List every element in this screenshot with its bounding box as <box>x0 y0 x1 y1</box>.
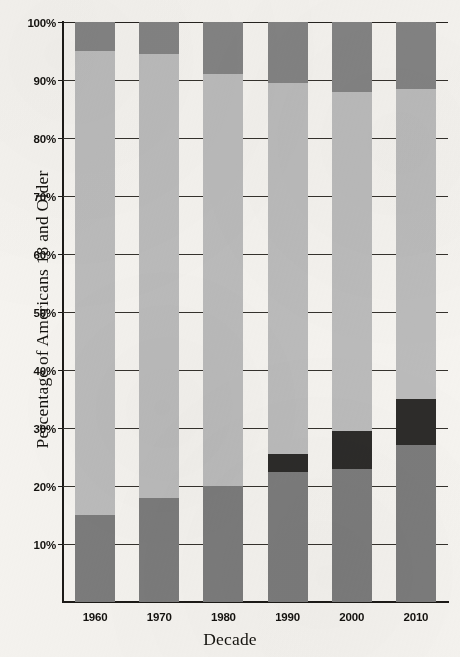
y-tick-label-80: 80% <box>34 133 56 145</box>
y-tick-label-60: 60% <box>34 249 56 261</box>
bar-segment-1970-segment-light[interactable] <box>139 54 179 498</box>
bar-segment-2010-segment-top[interactable] <box>396 22 436 89</box>
x-tick-label-2010: 2010 <box>396 611 436 623</box>
bar-segment-1960-segment-top[interactable] <box>75 22 115 51</box>
plot-area: 10%20%30%40%50%60%70%80%90%100% 19601970… <box>63 22 448 602</box>
bar-group-1960[interactable]: 1960 <box>75 22 115 602</box>
y-tick-mark-60 <box>58 254 63 255</box>
y-tick-mark-40 <box>58 370 63 371</box>
y-tick-mark-50 <box>58 312 63 313</box>
bar-segment-1980-segment-light[interactable] <box>203 74 243 486</box>
y-tick-label-10: 10% <box>34 539 56 551</box>
y-tick-label-100: 100% <box>27 17 56 29</box>
x-tick-label-1970: 1970 <box>139 611 179 623</box>
bar-segment-1990-segment-dark[interactable] <box>268 454 308 471</box>
y-tick-label-50: 50% <box>34 307 56 319</box>
bar-segment-2000-segment-bottom[interactable] <box>332 469 372 602</box>
gridline-30: 30% <box>63 428 448 429</box>
x-tick-label-1990: 1990 <box>268 611 308 623</box>
bar-segment-1970-segment-top[interactable] <box>139 22 179 54</box>
bar-group-1970[interactable]: 1970 <box>139 22 179 602</box>
y-tick-mark-70 <box>58 196 63 197</box>
y-tick-label-30: 30% <box>34 423 56 435</box>
gridline-50: 50% <box>63 312 448 313</box>
gridline-80: 80% <box>63 138 448 139</box>
y-tick-label-40: 40% <box>34 365 56 377</box>
stacked-bar-chart: Percentage of Americans 18 and Older 10%… <box>0 0 460 657</box>
bar-segment-1970-segment-bottom[interactable] <box>139 498 179 602</box>
bar-segment-2010-segment-light[interactable] <box>396 89 436 399</box>
gridline-40: 40% <box>63 370 448 371</box>
x-axis-title: Decade <box>0 629 460 650</box>
bar-segment-1980-segment-top[interactable] <box>203 22 243 74</box>
bar-segment-1980-segment-bottom[interactable] <box>203 486 243 602</box>
y-tick-label-90: 90% <box>34 75 56 87</box>
bar-segment-1990-segment-top[interactable] <box>268 22 308 83</box>
bar-group-1980[interactable]: 1980 <box>203 22 243 602</box>
y-tick-mark-30 <box>58 428 63 429</box>
bar-segment-2000-segment-top[interactable] <box>332 22 372 92</box>
gridline-90: 90% <box>63 80 448 81</box>
gridline-10: 10% <box>63 544 448 545</box>
bar-group-2010[interactable]: 2010 <box>396 22 436 602</box>
gridline-70: 70% <box>63 196 448 197</box>
x-axis-line <box>62 601 449 603</box>
bar-segment-1960-segment-light[interactable] <box>75 51 115 515</box>
y-tick-mark-10 <box>58 544 63 545</box>
gridline-20: 20% <box>63 486 448 487</box>
y-tick-mark-80 <box>58 138 63 139</box>
bar-segment-1960-segment-bottom[interactable] <box>75 515 115 602</box>
bar-segment-1990-segment-light[interactable] <box>268 83 308 454</box>
x-tick-label-1960: 1960 <box>75 611 115 623</box>
bar-segment-2000-segment-dark[interactable] <box>332 431 372 469</box>
y-tick-mark-100 <box>58 22 63 23</box>
y-tick-mark-90 <box>58 80 63 81</box>
y-tick-label-70: 70% <box>34 191 56 203</box>
bar-segment-1990-segment-bottom[interactable] <box>268 472 308 603</box>
gridline-100: 100% <box>63 22 448 23</box>
bar-group-1990[interactable]: 1990 <box>268 22 308 602</box>
bar-segment-2010-segment-bottom[interactable] <box>396 445 436 602</box>
bar-group-2000[interactable]: 2000 <box>332 22 372 602</box>
x-tick-label-1980: 1980 <box>203 611 243 623</box>
x-tick-label-2000: 2000 <box>332 611 372 623</box>
bar-segment-2000-segment-light[interactable] <box>332 92 372 431</box>
y-tick-label-20: 20% <box>34 481 56 493</box>
bar-segment-2010-segment-dark[interactable] <box>396 399 436 445</box>
gridline-60: 60% <box>63 254 448 255</box>
y-tick-mark-20 <box>58 486 63 487</box>
